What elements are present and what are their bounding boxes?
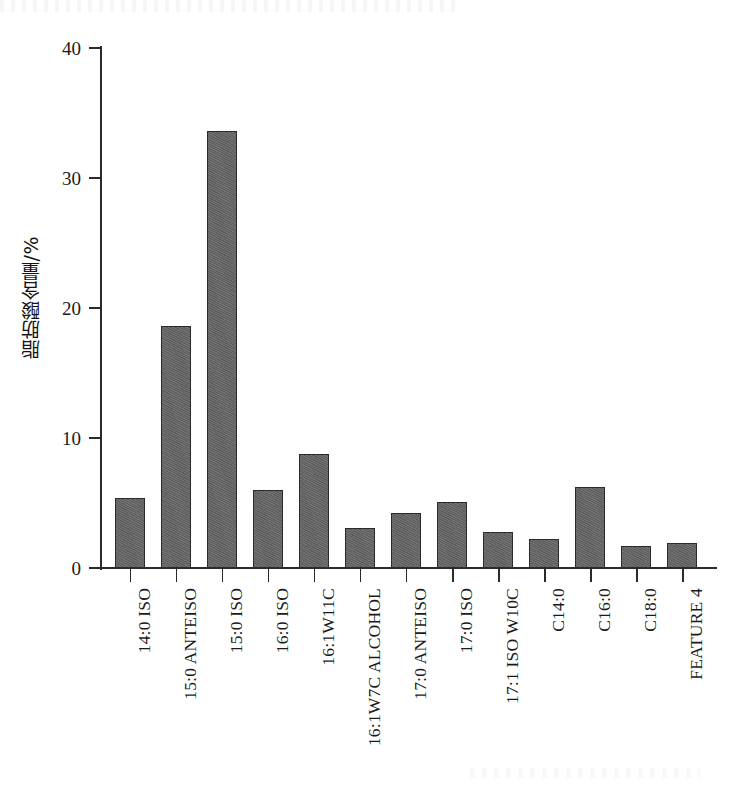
y-axis-tick: 0	[89, 567, 100, 568]
y-axis-tick-label: 30	[62, 168, 81, 187]
x-axis-tick-label: C18:0	[636, 588, 654, 632]
x-axis-tick	[590, 568, 592, 582]
bar	[575, 487, 605, 568]
x-axis-tick	[268, 568, 270, 582]
x-axis-tick-label: C16:0	[590, 588, 608, 632]
x-axis-tick-label: 16:1W11C	[314, 588, 332, 666]
bar	[253, 490, 283, 568]
bar	[483, 532, 513, 568]
x-axis-tick-label: 17:0 ISO	[452, 588, 470, 653]
bar	[667, 543, 697, 568]
y-axis-tick: 10	[89, 437, 100, 438]
bar	[299, 454, 329, 568]
x-axis-tick	[544, 568, 546, 582]
y-axis-tick-label: 10	[62, 428, 81, 447]
x-axis-tick-label: 16:1W7C ALCOHOL	[360, 588, 378, 746]
x-axis-tick-label: 15:0 ISO	[222, 588, 240, 653]
x-axis-tick-label: 16:0 ISO	[268, 588, 286, 653]
x-axis-tick	[452, 568, 454, 582]
x-axis-tick	[360, 568, 362, 582]
x-axis-tick-label: FEATURE 4	[682, 588, 700, 680]
bar	[345, 528, 375, 568]
y-axis-tick: 30	[89, 177, 100, 178]
bar	[391, 513, 421, 568]
y-axis-tick-label: 0	[72, 558, 82, 577]
x-axis-tick-label: 14:0 ISO	[130, 588, 148, 653]
bar-chart-figure: 脂肪酸含量/% 010203040 14:0 ISO15:0 ANTEISO15…	[0, 0, 738, 787]
bar	[207, 131, 237, 568]
x-axis-tick-label: 17:1 ISO W10C	[498, 588, 516, 704]
y-axis-tick: 40	[89, 47, 100, 48]
x-axis-tick	[406, 568, 408, 582]
x-axis-tick-label: 15:0 ANTEISO	[176, 588, 194, 700]
x-axis-tick	[314, 568, 316, 582]
x-axis-tick	[130, 568, 132, 582]
plot-area	[101, 48, 716, 568]
bar	[529, 539, 559, 568]
x-axis-tick-label: C14:0	[544, 588, 562, 632]
x-axis-tick	[176, 568, 178, 582]
x-axis-tick-label: 17:0 ANTEISO	[406, 588, 424, 700]
x-axis-tick	[636, 568, 638, 582]
bar	[115, 498, 145, 568]
x-axis-tick	[682, 568, 684, 582]
x-axis-tick	[222, 568, 224, 582]
bar	[621, 546, 651, 568]
bar	[437, 502, 467, 568]
y-axis-title: 脂肪酸含量/%	[22, 236, 56, 359]
x-axis-tick	[498, 568, 500, 582]
y-axis-tick: 20	[89, 307, 100, 308]
y-axis-tick-label: 20	[62, 298, 81, 317]
y-axis-tick-label: 40	[62, 38, 81, 57]
bar	[161, 326, 191, 568]
